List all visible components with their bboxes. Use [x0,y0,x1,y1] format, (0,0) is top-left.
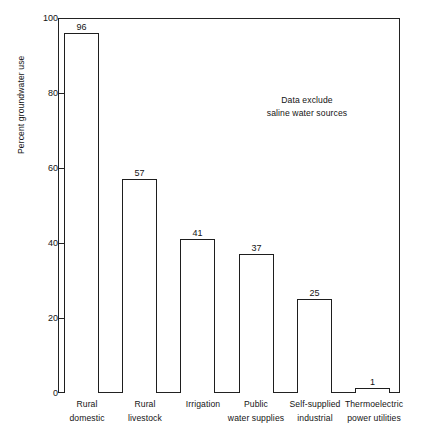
annotation-line-1: Data exclude [232,94,382,107]
bar-thermoelectric-power-utilities[interactable]: 1 [355,388,390,393]
y-tick-label-40: 40 [28,239,58,248]
bar-value-label: 96 [76,22,86,32]
y-axis-ticks: 100 80 60 40 20 0 [18,18,58,393]
y-tick-label-100: 100 [28,14,58,23]
bar-rural-livestock[interactable]: 57 [122,179,157,393]
x-label-line-1: Thermoelectric [326,398,421,412]
y-tick-label-0: 0 [28,389,58,398]
bar-value-label: 25 [309,288,319,298]
bars-layer: 96 57 41 37 25 1 [58,18,400,393]
y-tick-label-80: 80 [28,89,58,98]
bar-rural-domestic[interactable]: 96 [64,33,99,393]
bar-value-label: 1 [370,377,375,387]
bar-value-label: 57 [134,168,144,178]
x-axis-labels: Rural domestic Rural livestock Irrigatio… [58,398,400,432]
x-label-thermoelectric-power-utilities: Thermoelectric power utilities [326,398,421,425]
bar-value-label: 41 [192,228,202,238]
bar-value-label: 37 [251,243,261,253]
bar-irrigation[interactable]: 41 [180,239,215,393]
x-label-line-2: livestock [99,412,191,426]
x-label-line-2: power utilities [326,412,421,426]
y-tick-label-60: 60 [28,164,58,173]
chart-annotation: Data exclude saline water sources [232,94,382,120]
annotation-line-2: saline water sources [232,107,382,120]
y-tick-label-20: 20 [28,314,58,323]
bar-chart: Percent groundwater use 100 80 60 40 20 … [0,0,421,436]
bar-self-supplied-industrial[interactable]: 25 [297,299,332,393]
bar-public-water-supplies[interactable]: 37 [239,254,274,393]
